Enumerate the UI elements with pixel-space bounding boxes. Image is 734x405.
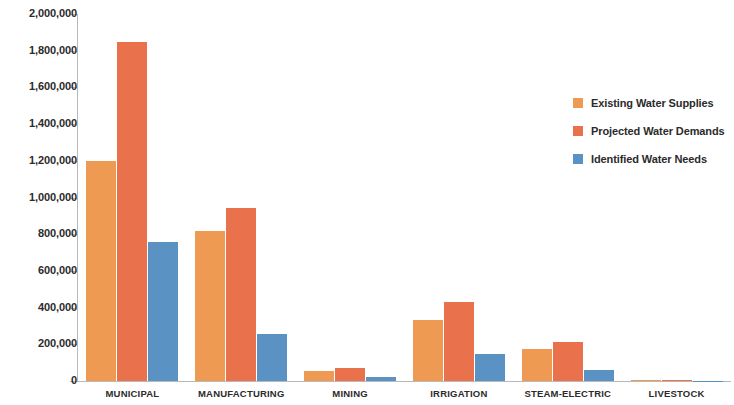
bar bbox=[584, 370, 614, 381]
legend-label: Projected Water Demands bbox=[591, 125, 725, 137]
x-axis-category-label: MANUFACTURING bbox=[198, 388, 285, 399]
y-axis-tick-label: 1,800,000 bbox=[11, 44, 77, 56]
legend-item: Identified Water Needs bbox=[573, 148, 725, 170]
bar bbox=[553, 342, 583, 381]
y-axis-tick-label: 1,600,000 bbox=[11, 80, 77, 92]
y-axis-tick-label: 800,000 bbox=[11, 227, 77, 239]
y-axis-tick: 1,200,000 bbox=[0, 161, 77, 162]
bar bbox=[195, 231, 225, 381]
bar-group bbox=[413, 14, 505, 381]
bar bbox=[366, 377, 396, 381]
x-axis-category-label: LIVESTOCK bbox=[649, 388, 705, 399]
y-axis-tick: 0 bbox=[0, 381, 77, 382]
legend-color-swatch bbox=[573, 126, 583, 136]
bar bbox=[148, 242, 178, 381]
bar-group bbox=[86, 14, 178, 381]
y-axis-tick-label: 400,000 bbox=[11, 301, 77, 313]
plot-area bbox=[78, 14, 731, 381]
bar bbox=[693, 381, 723, 382]
bar bbox=[662, 380, 692, 381]
y-axis-tick-label: 0 bbox=[11, 374, 77, 386]
y-axis-tick: 1,600,000 bbox=[0, 87, 77, 88]
x-axis-category-label: MUNICIPAL bbox=[105, 388, 159, 399]
bar-group bbox=[631, 14, 723, 381]
chart-legend: Existing Water SuppliesProjected Water D… bbox=[573, 92, 725, 176]
y-axis-tick: 400,000 bbox=[0, 308, 77, 309]
legend-color-swatch bbox=[573, 154, 583, 164]
legend-label: Identified Water Needs bbox=[591, 153, 707, 165]
bar bbox=[475, 354, 505, 381]
y-axis-tick-label: 2,000,000 bbox=[11, 7, 77, 19]
y-axis-tick: 1,400,000 bbox=[0, 124, 77, 125]
bar-group bbox=[304, 14, 396, 381]
bar bbox=[631, 380, 661, 381]
bar bbox=[226, 208, 256, 381]
legend-label: Existing Water Supplies bbox=[591, 97, 714, 109]
bar bbox=[335, 368, 365, 381]
bar bbox=[117, 42, 147, 381]
legend-item: Projected Water Demands bbox=[573, 120, 725, 142]
bar bbox=[304, 371, 334, 381]
y-axis-tick: 1,000,000 bbox=[0, 198, 77, 199]
x-axis-category-label: IRRIGATION bbox=[430, 388, 487, 399]
y-axis-tick: 800,000 bbox=[0, 234, 77, 235]
y-axis-tick-label: 200,000 bbox=[11, 337, 77, 349]
y-axis-tick-label: 1,200,000 bbox=[11, 154, 77, 166]
x-axis-category-label: MINING bbox=[332, 388, 368, 399]
legend-item: Existing Water Supplies bbox=[573, 92, 725, 114]
x-axis-category-label: STEAM-ELECTRIC bbox=[524, 388, 611, 399]
y-axis-tick-label: 1,000,000 bbox=[11, 191, 77, 203]
bar bbox=[444, 302, 474, 381]
bar bbox=[413, 320, 443, 381]
legend-color-swatch bbox=[573, 98, 583, 108]
y-axis-tick: 200,000 bbox=[0, 344, 77, 345]
y-axis-tick: 1,800,000 bbox=[0, 51, 77, 52]
y-axis-tick-label: 1,400,000 bbox=[11, 117, 77, 129]
bar bbox=[257, 334, 287, 381]
bar bbox=[86, 161, 116, 381]
bar-chart: 0200,000400,000600,000800,0001,000,0001,… bbox=[0, 0, 734, 405]
y-axis-tick-label: 600,000 bbox=[11, 264, 77, 276]
bar-group bbox=[195, 14, 287, 381]
x-axis-line bbox=[77, 381, 731, 382]
y-axis-tick: 600,000 bbox=[0, 271, 77, 272]
y-axis-tick: 2,000,000 bbox=[0, 14, 77, 15]
bar-group bbox=[522, 14, 614, 381]
bar bbox=[522, 349, 552, 381]
